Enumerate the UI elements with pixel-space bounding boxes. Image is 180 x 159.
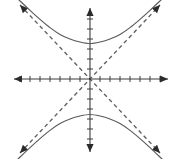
hyperbola-figure	[0, 0, 180, 159]
graph-canvas	[0, 0, 180, 159]
